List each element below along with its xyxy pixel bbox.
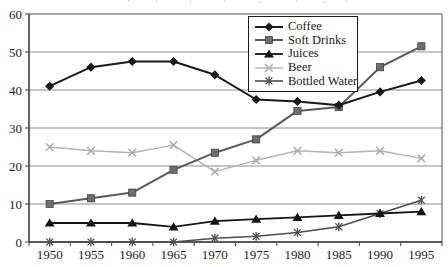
bottled-water-series bbox=[46, 196, 425, 247]
legend-label-beer: Beer bbox=[288, 61, 312, 74]
x-axis-label: 1960 bbox=[119, 247, 145, 262]
legend-item-beer: Beer bbox=[253, 61, 353, 75]
beverage-consumption-line-chart: 0102030405060195019551960196519701975198… bbox=[0, 0, 448, 267]
soft-drinks-line bbox=[50, 46, 422, 204]
legend-label-bottled-water: Bottled Water bbox=[288, 75, 357, 88]
legend-item-bottled-water: Bottled Water bbox=[253, 74, 353, 88]
coffee-diamond-icon bbox=[253, 21, 285, 33]
soft-drinks-markers bbox=[46, 43, 425, 208]
legend-label-juices: Juices bbox=[288, 47, 319, 60]
gridlines bbox=[29, 52, 442, 204]
x-axis-label: 1965 bbox=[161, 247, 187, 262]
legend-label-coffee: Coffee bbox=[288, 20, 322, 33]
y-axis-label: 10 bbox=[9, 197, 22, 212]
y-axis-label: 0 bbox=[16, 235, 23, 250]
x-axis-label: 1955 bbox=[78, 247, 104, 262]
beer-line bbox=[50, 145, 422, 172]
legend: Coffee Soft Drinks Juices Beer Bottled W… bbox=[248, 16, 358, 92]
soft-drinks-square-icon bbox=[253, 34, 285, 46]
coffee-series bbox=[45, 57, 426, 110]
bottled-water-asterisk-icon bbox=[253, 75, 285, 87]
legend-item-coffee: Coffee bbox=[253, 20, 353, 34]
juices-line bbox=[50, 212, 422, 227]
x-axis-label: 1985 bbox=[326, 247, 352, 262]
x-axis-label: 1970 bbox=[202, 247, 228, 262]
y-axis-label: 20 bbox=[9, 159, 22, 174]
legend-item-soft-drinks: Soft Drinks bbox=[253, 34, 353, 48]
x-axis-label: 1950 bbox=[37, 247, 63, 262]
juices-markers bbox=[45, 207, 427, 230]
legend-label-soft-drinks: Soft Drinks bbox=[288, 34, 346, 47]
legend-item-juices: Juices bbox=[253, 47, 353, 61]
plot-area: 0102030405060195019551960196519701975198… bbox=[0, 0, 448, 267]
x-axis-label: 1975 bbox=[243, 247, 269, 262]
x-axis-label: 1990 bbox=[367, 247, 393, 262]
y-axis-label: 40 bbox=[9, 83, 22, 98]
x-axis-label: 1995 bbox=[408, 247, 434, 262]
juices-series bbox=[45, 207, 427, 230]
soft-drinks-series bbox=[46, 43, 425, 208]
bottled-water-line bbox=[50, 200, 422, 242]
y-axis-label: 60 bbox=[9, 7, 22, 22]
x-axis-label: 1980 bbox=[284, 247, 310, 262]
beer-x-icon bbox=[253, 62, 285, 74]
y-axis-label: 50 bbox=[9, 45, 22, 60]
juices-triangle-icon bbox=[253, 48, 285, 60]
y-axis-label: 30 bbox=[9, 121, 22, 136]
bottled-water-markers bbox=[46, 196, 425, 247]
coffee-line bbox=[50, 62, 422, 106]
